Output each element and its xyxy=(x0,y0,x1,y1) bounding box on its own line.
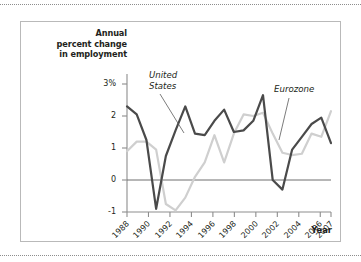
leader-line-united-states xyxy=(160,94,184,133)
employment-change-line-chart: Annual percent change in employment -101… xyxy=(21,22,342,243)
page-rule-bottom xyxy=(0,255,361,256)
y-tick-label: -1 xyxy=(88,208,116,216)
series-group xyxy=(127,95,331,210)
y-tick-label: 0 xyxy=(88,176,116,184)
series-label-united-states: UnitedStates xyxy=(149,70,177,91)
y-axis-title-line-3: in employment xyxy=(29,49,127,60)
y-axis-title: Annual percent change in employment xyxy=(29,28,127,60)
y-tick-label: 1 xyxy=(88,144,116,152)
y-tick-label: 3% xyxy=(88,80,116,88)
page-rule-top xyxy=(0,4,361,5)
annotation-leaders xyxy=(160,94,289,140)
y-axis-title-line-1: Annual xyxy=(29,28,127,39)
series-label-line: States xyxy=(149,81,177,92)
y-tick-label: 2 xyxy=(88,112,116,120)
series-label-eurozone: Eurozone xyxy=(274,84,314,95)
series-label-line: United xyxy=(149,70,177,81)
figure-frame: Annual percent change in employment -101… xyxy=(20,21,341,242)
y-axis-title-line-2: percent change xyxy=(29,39,127,50)
x-axis-title: Year xyxy=(311,225,332,235)
y-tick-marks xyxy=(122,84,127,212)
x-tick-marks xyxy=(127,212,331,217)
leader-line-eurozone xyxy=(279,98,289,140)
